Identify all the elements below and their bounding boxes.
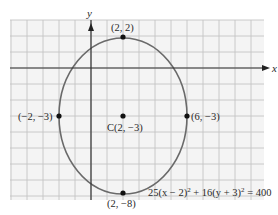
point-center bbox=[120, 113, 125, 118]
ellipse-graph: x y (2, 2) (−2, −3) C(2, −3) (6, −3) (2,… bbox=[0, 0, 278, 215]
label-right-point: (6, −3) bbox=[191, 111, 220, 123]
y-axis-label: y bbox=[86, 7, 92, 19]
point-right bbox=[184, 113, 189, 118]
point-top bbox=[120, 34, 125, 39]
grid-background bbox=[10, 20, 264, 200]
label-bottom-point: (2, −8) bbox=[107, 198, 136, 210]
label-center-point: C(2, −3) bbox=[107, 122, 143, 134]
x-axis-arrow-icon bbox=[262, 65, 270, 71]
x-axis-label: x bbox=[271, 62, 277, 74]
point-left bbox=[56, 113, 61, 118]
ellipse-equation: 25(x − 2)2 + 16(y + 3)2 = 400 bbox=[148, 186, 271, 199]
label-left-point: (−2, −3) bbox=[18, 111, 53, 123]
label-top-point: (2, 2) bbox=[111, 22, 134, 34]
point-bottom bbox=[120, 190, 125, 195]
